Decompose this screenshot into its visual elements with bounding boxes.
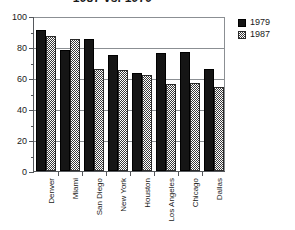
chart-title: 1987 vs. 1979 [0, 0, 225, 5]
chart-legend: 19791987 [238, 18, 270, 39]
y-axis-minor-tick [31, 95, 34, 96]
x-category-label-miami: Miami [72, 178, 80, 199]
bar-1987-denver [46, 36, 56, 171]
legend-swatch-1987 [238, 31, 246, 39]
bar-1987-houston [142, 75, 152, 171]
x-axis-tick [106, 171, 107, 176]
x-axis-tick [154, 171, 155, 176]
x-category-label-denver: Denver [48, 178, 56, 204]
gridline [34, 17, 225, 18]
x-category-label-san-diego: San Diego [96, 178, 104, 215]
legend-swatch-1979 [238, 19, 246, 27]
bar-1987-new-york [118, 70, 128, 171]
bar-chart: 1987 vs. 1979 020406080100 DenverMiamiSa… [0, 0, 295, 230]
bar-1987-chicago [190, 83, 200, 171]
legend-label-1987: 1987 [250, 30, 270, 39]
y-axis-tick [29, 79, 34, 80]
y-axis-tick [29, 48, 34, 49]
y-axis-minor-tick [31, 157, 34, 158]
bar-1979-dallas [204, 69, 214, 171]
bar-1979-denver [36, 30, 46, 171]
y-axis-tick [29, 172, 34, 173]
bar-1979-houston [132, 73, 142, 171]
x-category-label-los-angeles: Los Angeles [168, 178, 176, 222]
x-category-label-chicago: Chicago [192, 178, 200, 207]
x-axis-tick [202, 171, 203, 176]
bar-1979-miami [60, 50, 70, 171]
x-axis-tick [82, 171, 83, 176]
bar-1979-new-york [108, 55, 118, 171]
gridline [34, 48, 225, 49]
x-axis-tick [58, 171, 59, 176]
bar-1987-dallas [214, 87, 224, 171]
y-axis-tick [29, 110, 34, 111]
bar-1979-los-angeles [156, 53, 166, 171]
x-axis-tick [178, 171, 179, 176]
y-axis-tick [29, 141, 34, 142]
bar-1987-san-diego [94, 69, 104, 171]
y-axis-label: 60 [17, 75, 27, 84]
y-axis-tick [29, 17, 34, 18]
bar-1979-chicago [180, 52, 190, 171]
bar-1987-los-angeles [166, 84, 176, 171]
plot-area: 020406080100 [33, 17, 225, 172]
x-axis-tick [130, 171, 131, 176]
legend-item-1987: 1987 [238, 30, 270, 39]
x-category-label-houston: Houston [144, 178, 152, 208]
plot-border-right [224, 17, 225, 171]
y-axis-minor-tick [31, 33, 34, 34]
y-axis-label: 40 [17, 106, 27, 115]
legend-label-1979: 1979 [250, 18, 270, 27]
y-axis-label: 20 [17, 137, 27, 146]
bar-1979-san-diego [84, 39, 94, 171]
legend-item-1979: 1979 [238, 18, 270, 27]
x-category-label-new-york: New York [120, 178, 128, 212]
y-axis-minor-tick [31, 126, 34, 127]
y-axis-minor-tick [31, 64, 34, 65]
y-axis-label: 80 [17, 44, 27, 53]
x-category-label-dallas: Dallas [216, 178, 224, 200]
y-axis-label: 0 [22, 168, 27, 177]
y-axis-label: 100 [12, 13, 27, 22]
bar-1987-miami [70, 39, 80, 171]
